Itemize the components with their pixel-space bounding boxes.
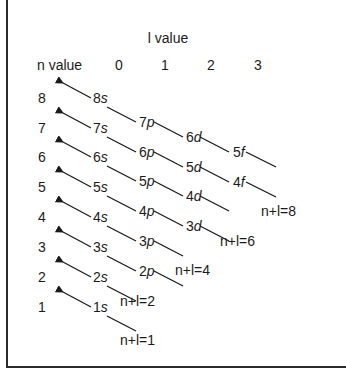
orbital-4s: 4s	[93, 209, 108, 225]
n-value-4: 4	[38, 209, 46, 225]
sum-label-1: n+l=1	[120, 332, 155, 348]
orbital-7p: 7p	[139, 114, 155, 130]
orbital-4p: 4p	[139, 203, 155, 219]
n-value-7: 7	[38, 120, 46, 136]
orbital-5s: 5s	[93, 179, 108, 195]
arrow-icon	[63, 142, 91, 157]
orbital-1s: 1s	[93, 299, 108, 315]
n-value-6: 6	[38, 149, 46, 165]
l-value-2: 2	[207, 57, 215, 73]
orbital-7s: 7s	[93, 120, 108, 136]
sum-label-6: n+l=6	[220, 233, 255, 249]
arrow-icon	[63, 262, 91, 277]
n-value-column: 8 7 6 5 4 3 2 1	[38, 90, 46, 315]
orbital-6s: 6s	[93, 149, 108, 165]
sum-label-4: n+l=4	[175, 262, 210, 278]
l-value-title: l value	[148, 30, 189, 46]
arrow-icon	[63, 83, 91, 98]
n-value-8: 8	[38, 90, 46, 106]
n-value-header: n value	[37, 57, 82, 73]
s-orbitals: 8s 7s 6s 5s 4s 3s 2s 1s	[93, 90, 108, 315]
n-value-3: 3	[38, 239, 46, 255]
orbital-6p: 6p	[139, 144, 155, 160]
orbital-3d: 3d	[186, 218, 203, 234]
orbital-3p: 3p	[139, 233, 155, 249]
arrows	[63, 83, 91, 307]
p-orbitals: 7p 6p 5p 4p 3p 2p	[139, 114, 155, 279]
orbital-5d: 5d	[186, 159, 203, 175]
n-value-2: 2	[38, 269, 46, 285]
n-value-1: 1	[38, 299, 46, 315]
orbital-6d: 6d	[186, 129, 203, 145]
orbital-8s: 8s	[93, 90, 108, 106]
arrow-icon	[63, 292, 91, 307]
d-orbitals: 6d 5d 4d 3d	[186, 129, 203, 234]
orbital-4f: 4f	[233, 174, 247, 190]
arrow-icon	[63, 113, 91, 128]
l-value-3: 3	[254, 57, 262, 73]
f-orbitals: 5f 4f	[233, 144, 247, 190]
sum-label-8: n+l=8	[261, 203, 296, 219]
l-value-1: 1	[161, 57, 169, 73]
orbital-3s: 3s	[93, 239, 108, 255]
arrow-icon	[63, 172, 91, 187]
orbital-5f: 5f	[233, 144, 247, 160]
arrow-icon	[63, 232, 91, 247]
sum-label-2: n+l=2	[120, 293, 155, 309]
orbital-2p: 2p	[139, 263, 155, 279]
arrow-icon	[63, 202, 91, 217]
orbital-5p: 5p	[139, 173, 155, 189]
orbital-4d: 4d	[186, 188, 203, 204]
l-value-0: 0	[115, 57, 123, 73]
n-value-5: 5	[38, 179, 46, 195]
orbital-2s: 2s	[93, 269, 108, 285]
